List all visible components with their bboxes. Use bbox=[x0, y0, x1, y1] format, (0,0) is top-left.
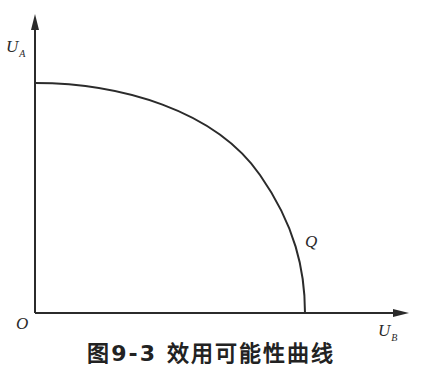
x-axis-arrow-icon bbox=[393, 309, 409, 317]
origin-label: O bbox=[16, 315, 28, 332]
y-axis-label: UA bbox=[6, 38, 25, 55]
y-axis-arrow-icon bbox=[31, 14, 39, 30]
curve-label-q: Q bbox=[305, 233, 317, 250]
figure-caption: 图9-3 效用可能性曲线 bbox=[0, 341, 422, 367]
utility-possibility-curve bbox=[35, 83, 305, 313]
x-axis-label: UB bbox=[378, 322, 397, 339]
